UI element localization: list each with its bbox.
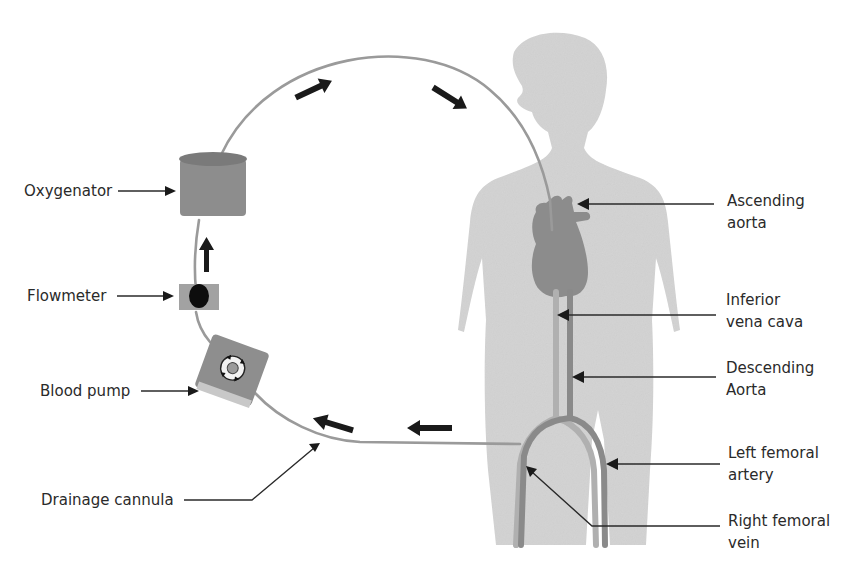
flowmeter-leader-arrowhead bbox=[163, 291, 174, 301]
label-left-femoral-artery-line2: artery bbox=[728, 466, 774, 484]
flow-arrow-left bbox=[407, 420, 452, 436]
flow-arrow-down-right bbox=[429, 81, 471, 116]
label-inferior-vena-cava: Inferior vena cava bbox=[726, 291, 803, 331]
label-ascending-aorta-line2: aorta bbox=[727, 214, 767, 232]
oxygenator-leader-arrowhead bbox=[165, 186, 176, 196]
label-ascending-aorta: Ascending aorta bbox=[727, 192, 810, 232]
label-right-femoral-vein-line1: Right femoral bbox=[728, 512, 830, 530]
label-descending-aorta: Descending Aorta bbox=[726, 359, 819, 399]
label-left-femoral-artery-line1: Left femoral bbox=[728, 444, 819, 462]
label-oxygenator: Oxygenator bbox=[24, 182, 113, 200]
label-ascending-aorta-line1: Ascending bbox=[727, 192, 805, 210]
flowmeter-dial bbox=[189, 284, 209, 308]
ecmo-diagram: Oxygenator Flowmeter Blood pump Drainage… bbox=[0, 0, 852, 572]
label-inferior-vena-cava-line1: Inferior bbox=[726, 291, 781, 309]
oxygenator-to-flowmeter-tubing bbox=[195, 220, 199, 290]
drainage-cannula-leader bbox=[184, 448, 314, 500]
drainage-tubing bbox=[255, 393, 520, 444]
label-right-femoral-vein: Right femoral vein bbox=[728, 512, 835, 552]
flow-arrow-up bbox=[199, 237, 214, 272]
flowmeter-to-pump-tubing bbox=[196, 312, 210, 342]
oxygenator-body bbox=[180, 159, 246, 216]
label-blood-pump: Blood pump bbox=[40, 382, 130, 400]
label-flowmeter: Flowmeter bbox=[27, 287, 107, 305]
label-inferior-vena-cava-line2: vena cava bbox=[726, 313, 803, 331]
label-right-femoral-vein-line2: vein bbox=[728, 534, 760, 552]
oxygenator-device[interactable] bbox=[179, 152, 247, 216]
label-descending-aorta-line2: Aorta bbox=[726, 381, 766, 399]
flowmeter-device[interactable] bbox=[179, 284, 219, 310]
label-descending-aorta-line1: Descending bbox=[726, 359, 814, 377]
oxygenator-top bbox=[179, 152, 247, 166]
label-drainage-cannula: Drainage cannula bbox=[41, 491, 174, 509]
labels: Oxygenator Flowmeter Blood pump Drainage… bbox=[24, 182, 835, 552]
label-left-femoral-artery: Left femoral artery bbox=[728, 444, 824, 484]
